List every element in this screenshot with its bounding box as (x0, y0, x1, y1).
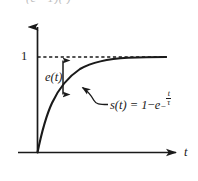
exponential-step-response-figure: (e - 1)( ) (0, 0, 198, 181)
error-function-label: e(t) (45, 70, 62, 85)
y-axis-tick-label-1: 1 (21, 49, 27, 64)
curve-equation-prefix: s(t) = 1 (110, 98, 148, 112)
curve-callout-leader (83, 88, 109, 105)
curve-equation-label: s(t) = 1−e− t τ (110, 95, 171, 113)
curve-equation-exponent-fraction: t τ (166, 90, 171, 108)
exponent-denominator: τ (166, 99, 171, 107)
x-axis-label: t (184, 145, 187, 160)
curve-equation-minus: − (148, 98, 155, 112)
